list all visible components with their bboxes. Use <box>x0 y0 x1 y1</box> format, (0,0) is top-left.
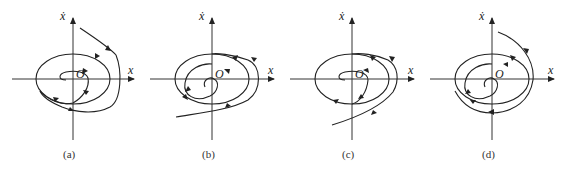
arrow-icon <box>185 86 191 92</box>
origin-label: O <box>355 67 364 81</box>
x-label: x <box>267 63 274 77</box>
origin-label: O <box>215 67 224 81</box>
caption-c: (c) <box>342 148 355 161</box>
arrow-icon <box>488 109 494 115</box>
xdot-label: ẋ <box>478 9 485 23</box>
x-label: x <box>127 63 134 77</box>
xdot-label: ẋ <box>198 9 205 23</box>
xdot-label: ẋ <box>338 9 345 23</box>
arrow-icon <box>503 62 508 67</box>
caption-a: (a) <box>63 148 76 161</box>
phase-portrait-figure: ẋ x O (a) ẋ x O (b) ẋ <box>0 0 563 174</box>
origin-label: O <box>495 67 504 81</box>
caption-d: (d) <box>482 148 495 161</box>
inner-trajectory <box>465 64 498 99</box>
panel-a: ẋ x O (a) <box>12 9 134 161</box>
arrow-icon <box>371 110 377 115</box>
caption-b: (b) <box>202 148 215 161</box>
arrow-icon <box>333 99 339 104</box>
arrow-icon <box>224 69 230 74</box>
x-label: x <box>547 63 554 77</box>
outer-trajectory <box>332 54 397 125</box>
arrow-icon <box>363 68 369 73</box>
panel-b: ẋ x O (b) <box>150 9 274 161</box>
xdot-label: ẋ <box>59 9 66 23</box>
arrow-icon <box>251 57 257 62</box>
panel-c: ẋ x O (c) <box>290 9 414 161</box>
arrow-icon <box>95 53 100 59</box>
arrow-icon <box>470 100 476 104</box>
arrow-icon <box>82 68 88 74</box>
inner-trajectory <box>185 64 218 99</box>
x-label: x <box>407 63 414 77</box>
panel-d: ẋ x O (d) <box>430 9 554 161</box>
